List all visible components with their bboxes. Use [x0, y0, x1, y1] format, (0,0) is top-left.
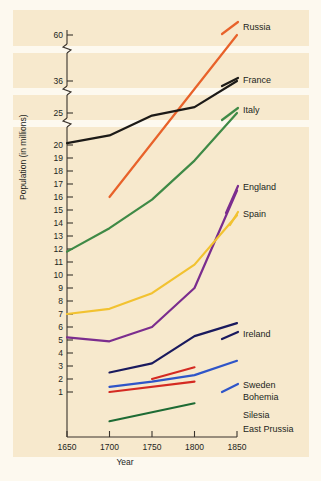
legend-label-france: France [243, 75, 271, 86]
x-tick-label-1700: 1700 [100, 442, 119, 452]
series-line-ireland [110, 323, 238, 372]
series-line-england [67, 191, 237, 342]
x-tick-label-1650: 1650 [58, 442, 77, 452]
legend-leader-sweden [222, 384, 238, 392]
legend-label-england: England [243, 182, 276, 193]
x-tick-label-1800: 1800 [185, 442, 204, 452]
series-group [67, 22, 238, 421]
legend-text-silesia: Silesia [243, 410, 270, 420]
x-axis-title-text: Year [116, 457, 133, 467]
legend-text-france: France [243, 75, 271, 85]
y-tick-label-13: 13 [54, 231, 64, 241]
series-line-east-prussia [110, 403, 195, 421]
y-tick-label-6: 6 [58, 322, 63, 332]
legend-text-ireland: Ireland [243, 329, 271, 339]
y-tick-label-60: 60 [54, 30, 64, 40]
y-tick-label-19: 19 [54, 153, 64, 163]
y-axis-title-text: Population (in millions) [18, 114, 28, 200]
legend-leader-spain [230, 212, 238, 225]
y-tick-label-17: 17 [54, 179, 64, 189]
y-tick-label-20: 20 [54, 140, 64, 150]
y-tick-label-5: 5 [58, 335, 63, 345]
y-tick-label-1: 1 [58, 387, 63, 397]
x-axis-title: Year [0, 457, 250, 467]
series-line-spain [67, 215, 237, 314]
legend-text-bohemia: Bohemia [243, 392, 279, 402]
legend-text-sweden: Sweden [243, 380, 276, 390]
legend-leader-ireland [222, 332, 238, 339]
y-axis-break-mark-0 [63, 44, 71, 53]
y-tick-label-25: 25 [54, 108, 64, 118]
legend-leader-england [226, 186, 238, 213]
legend-label-italy: Italy [243, 105, 260, 116]
y-axis-break-mark-1 [63, 86, 71, 95]
legend-label-ireland: Ireland [243, 329, 271, 340]
x-tick-label-1850: 1850 [228, 442, 247, 452]
legend-label-silesia: Silesia [243, 410, 270, 421]
legend-label-sweden: Sweden [243, 380, 276, 391]
legend-label-russia: Russia [243, 22, 271, 33]
legend-leader-russia [222, 22, 238, 34]
y-tick-label-10: 10 [54, 270, 64, 280]
y-tick-label-36: 36 [54, 76, 64, 86]
y-tick-label-11: 11 [54, 257, 63, 267]
legend-text-england: England [243, 182, 276, 192]
legend-text-east-prussia: East Prussia [243, 424, 294, 434]
legend-text-italy: Italy [243, 105, 260, 115]
y-tick-label-12: 12 [54, 244, 64, 254]
series-line-italy [67, 113, 237, 252]
y-tick-label-3: 3 [58, 361, 63, 371]
series-line-france [67, 81, 237, 143]
y-tick-label-18: 18 [54, 166, 64, 176]
series-line-russia [110, 35, 238, 197]
legend-text-russia: Russia [243, 22, 271, 32]
y-tick-label-4: 4 [58, 348, 63, 358]
series-line-silesia [110, 382, 195, 392]
y-tick-label-9: 9 [58, 283, 63, 293]
y-tick-label-14: 14 [54, 218, 64, 228]
y-axis-break-mark-2 [63, 118, 71, 127]
legend-label-bohemia: Bohemia [243, 392, 279, 403]
y-tick-label-7: 7 [58, 309, 63, 319]
legend-label-east-prussia: East Prussia [243, 424, 294, 435]
y-axis-title: Population (in millions) [18, 114, 28, 200]
y-tick-label-2: 2 [58, 374, 63, 384]
x-tick-label-1750: 1750 [143, 442, 162, 452]
y-tick-label-8: 8 [58, 296, 63, 306]
y-tick-label-16: 16 [54, 192, 64, 202]
y-tick-label-15: 15 [54, 205, 64, 215]
legend-label-spain: Spain [243, 209, 266, 220]
population-line-chart: 1234567891011121314151617181920253660165… [0, 0, 321, 481]
legend-text-spain: Spain [243, 209, 266, 219]
plot-area: 1234567891011121314151617181920253660165… [0, 0, 321, 481]
